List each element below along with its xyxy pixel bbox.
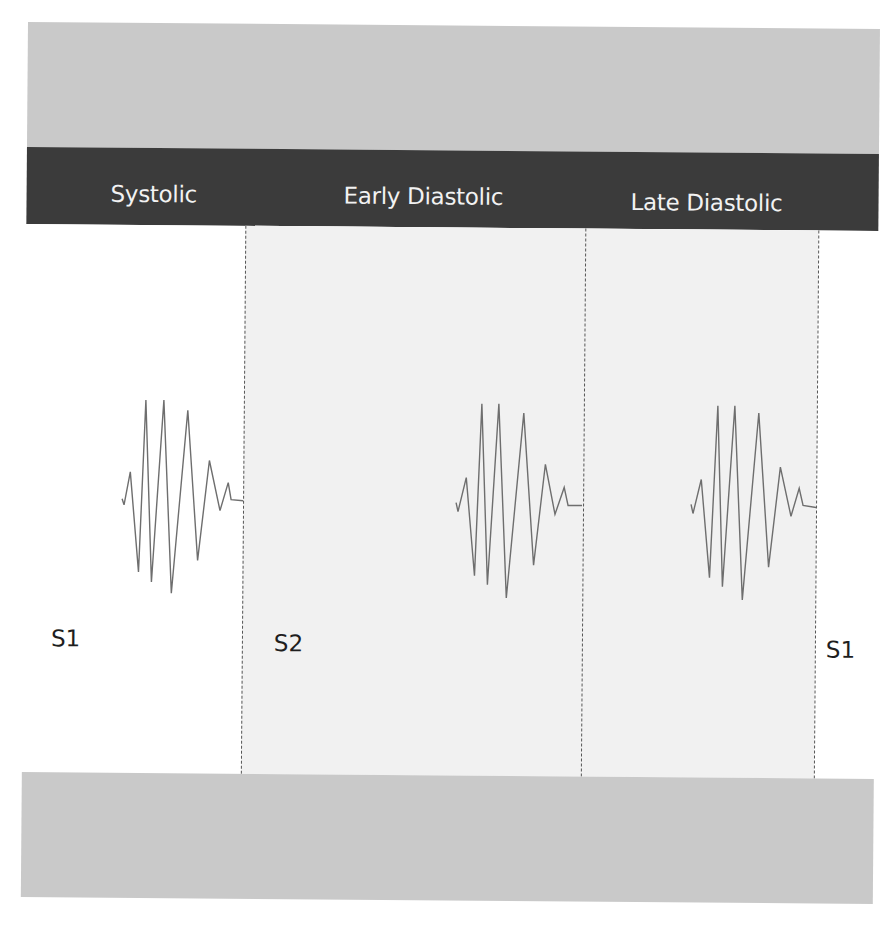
- cardiac-cycle-diagram: Systolic Early Diastolic Late Diastolic …: [21, 22, 880, 904]
- early-diastolic-murmur-waveform: [455, 404, 583, 599]
- murmur-waveforms: [21, 22, 880, 904]
- late-diastolic-murmur-waveform: [690, 405, 817, 600]
- systolic-murmur-waveform: [121, 400, 244, 594]
